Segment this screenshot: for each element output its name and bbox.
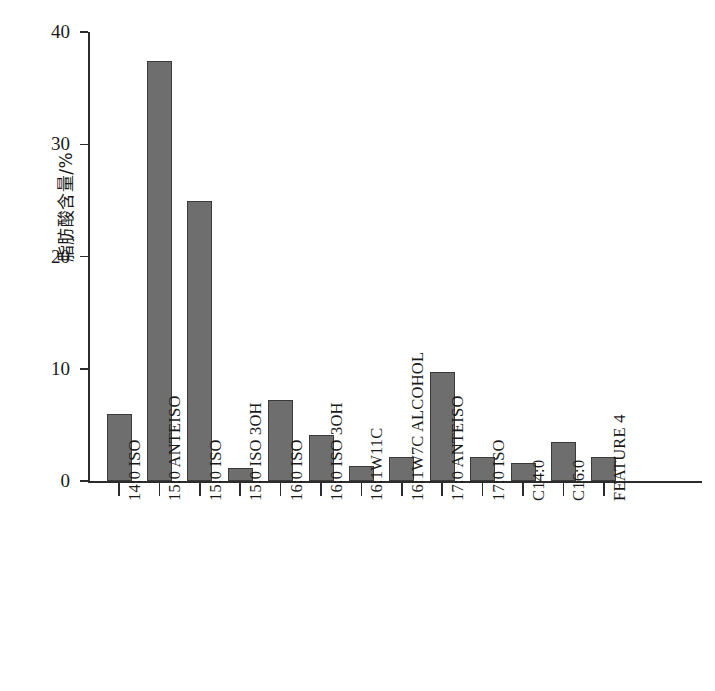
x-tick-mark (118, 482, 120, 496)
paper-texture-overlay (0, 0, 715, 691)
x-tick-mark (603, 482, 605, 496)
x-tick-label: 15:0 ISO (207, 439, 224, 501)
x-tick-label: 15:0 ANTEISO (166, 395, 183, 501)
x-tick-mark (482, 482, 484, 496)
x-tick-label: 16:1W11C (368, 428, 385, 501)
x-tick-label: 17:0 ISO (490, 439, 507, 501)
x-tick-mark (280, 482, 282, 496)
y-tick-label: 20 (30, 247, 70, 266)
bar-chart-figure: 脂肪酸含量/% 01020304014:0 ISO15:0 ANTEISO15:… (0, 0, 715, 691)
y-tick-mark (80, 144, 88, 146)
x-tick-mark (401, 482, 403, 496)
x-tick-mark (320, 482, 322, 496)
x-tick-mark (441, 482, 443, 496)
y-tick-label: 40 (30, 22, 70, 41)
x-tick-mark (159, 482, 161, 496)
x-tick-label: 15:0 ISO 3OH (247, 402, 264, 501)
x-tick-label: C14:0 (530, 460, 547, 501)
y-tick-label: 0 (30, 471, 70, 490)
x-tick-label: 16:1W7C ALCOHOL (409, 352, 426, 501)
y-tick-mark (80, 256, 88, 258)
x-tick-label: 16:0 ISO (288, 439, 305, 501)
x-tick-mark (563, 482, 565, 496)
x-tick-mark (199, 482, 201, 496)
y-tick-mark (80, 480, 88, 482)
y-tick-label: 30 (30, 134, 70, 153)
x-tick-mark (361, 482, 363, 496)
y-axis-line (88, 32, 90, 481)
x-tick-label: 14:0 ISO (126, 439, 143, 501)
x-tick-label: 17:0 ANTEISO (449, 395, 466, 501)
x-tick-mark (239, 482, 241, 496)
y-tick-mark (80, 368, 88, 370)
x-tick-label: 16:0 ISO 3OH (328, 402, 345, 501)
y-tick-mark (80, 31, 88, 33)
x-tick-mark (522, 482, 524, 496)
y-tick-label: 10 (30, 359, 70, 378)
x-tick-label: C16:0 (570, 460, 587, 501)
x-tick-label: FEATURE 4 (611, 414, 628, 501)
